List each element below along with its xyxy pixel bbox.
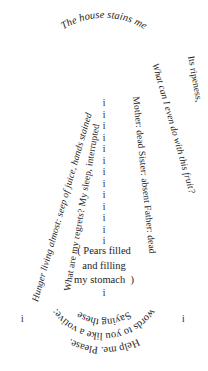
flank-i-right: i bbox=[182, 314, 185, 324]
right-line-ripeness: Its ripeness, bbox=[186, 55, 204, 103]
arc-glyph: . bbox=[101, 345, 104, 356]
i-glyph: i bbox=[0, 144, 208, 156]
paren-line: my stomach ) bbox=[0, 273, 208, 288]
arc-glyph: e bbox=[103, 345, 108, 356]
arc-glyph: g bbox=[102, 317, 107, 328]
i-glyph: i bbox=[0, 133, 208, 145]
arc-glyph bbox=[103, 331, 106, 342]
i-glyph: i bbox=[0, 98, 208, 110]
parenthetical-block: ( Pears filled and filling my stomach ) bbox=[0, 244, 208, 288]
i-glyph: i bbox=[0, 121, 208, 133]
arc-glyph: m bbox=[108, 344, 117, 356]
paren-line: and filling bbox=[0, 259, 208, 274]
arc-glyph: l bbox=[99, 331, 102, 342]
center-i-column: iiiiiiiiiiiii bbox=[0, 98, 208, 248]
i-glyph: i bbox=[0, 167, 208, 179]
i-glyph: i bbox=[0, 110, 208, 122]
paren-line: ( Pears filled bbox=[0, 244, 208, 259]
poem-canvas: The house stains me Hunger living almost… bbox=[0, 0, 208, 371]
i-glyph: i bbox=[0, 225, 208, 237]
i-glyph: i bbox=[0, 156, 208, 168]
i-glyph: i bbox=[0, 190, 208, 202]
tail-i-glyph: i bbox=[0, 288, 208, 298]
flank-i-left: i bbox=[21, 314, 24, 324]
arc-glyph: u bbox=[105, 331, 111, 342]
i-glyph: i bbox=[0, 213, 208, 225]
i-glyph: i bbox=[0, 202, 208, 214]
i-glyph: i bbox=[0, 179, 208, 191]
